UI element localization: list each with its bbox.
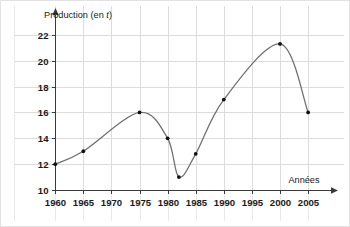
y-tick-label: 20 <box>38 56 49 67</box>
data-point-marker <box>81 149 85 153</box>
data-point-marker <box>194 152 198 156</box>
chart-background <box>0 0 350 227</box>
production-line-chart: 10121416182022 1960196519701975198019851… <box>0 0 350 227</box>
y-tick-label: 12 <box>38 159 49 170</box>
data-point-marker <box>177 175 181 179</box>
x-axis-title: Années <box>288 175 320 185</box>
x-tick-label: 2005 <box>298 197 320 208</box>
x-tick-label: 1980 <box>158 197 179 208</box>
x-tick-label: 1995 <box>242 197 264 208</box>
y-tick-label: 18 <box>38 82 49 93</box>
chart-canvas: 10121416182022 1960196519701975198019851… <box>0 0 350 227</box>
x-tick-label: 2000 <box>270 197 291 208</box>
y-tick-label: 10 <box>38 185 49 196</box>
x-tick-label: 1975 <box>130 197 152 208</box>
x-tick-label: 1985 <box>186 197 208 208</box>
x-tick-label: 1970 <box>101 197 122 208</box>
data-point-marker <box>166 136 170 140</box>
data-point-marker <box>278 42 282 46</box>
y-tick-label: 16 <box>38 107 49 118</box>
y-tick-label: 14 <box>38 133 49 144</box>
data-point-marker <box>138 111 142 115</box>
x-tick-label: 1990 <box>214 197 235 208</box>
data-point-marker <box>306 111 310 115</box>
data-point-marker <box>222 98 226 102</box>
y-tick-label: 22 <box>38 30 49 41</box>
x-tick-label: 1960 <box>45 197 66 208</box>
x-tick-label: 1965 <box>73 197 95 208</box>
data-point-marker <box>53 162 57 166</box>
y-axis-title: Production (en t) <box>44 10 112 20</box>
